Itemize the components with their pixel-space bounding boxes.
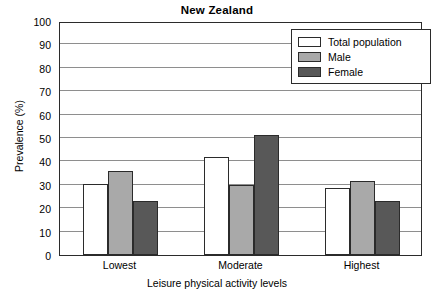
legend-item: Total population xyxy=(298,34,425,49)
y-tick-label: 70 xyxy=(39,87,51,97)
y-tick-label: 0 xyxy=(45,251,51,261)
chart-title: New Zealand xyxy=(0,4,434,16)
gridline xyxy=(60,160,421,161)
gridline xyxy=(60,114,421,115)
bar xyxy=(254,135,279,256)
y-tick-label: 100 xyxy=(33,17,51,27)
bar xyxy=(229,185,254,255)
legend-swatch-icon xyxy=(298,67,321,77)
gridline xyxy=(60,90,421,91)
x-tick-label: Highest xyxy=(344,259,380,271)
y-tick-label: 60 xyxy=(39,111,51,121)
x-axis-title: Leisure physical activity levels xyxy=(0,277,434,289)
bar xyxy=(108,171,133,255)
legend-label: Male xyxy=(328,51,351,63)
y-axis-tick-labels: 0102030405060708090100 xyxy=(0,22,55,256)
y-tick-label: 30 xyxy=(39,181,51,191)
y-tick-label: 90 xyxy=(39,40,51,50)
legend-swatch-icon xyxy=(298,37,321,47)
y-tick-label: 20 xyxy=(39,204,51,214)
legend-label: Total population xyxy=(328,36,402,48)
bar xyxy=(375,201,400,255)
gridline xyxy=(60,137,421,138)
legend-item: Female xyxy=(298,64,425,79)
y-tick-label: 50 xyxy=(39,134,51,144)
x-axis-tick-labels: LowestModerateHighest xyxy=(59,259,422,275)
y-tick-label: 80 xyxy=(39,64,51,74)
y-tick-label: 40 xyxy=(39,157,51,167)
y-tick-label: 10 xyxy=(39,228,51,238)
x-tick-label: Moderate xyxy=(218,259,262,271)
legend-swatch-icon xyxy=(298,52,321,62)
chart-legend: Total populationMaleFemale xyxy=(291,29,431,84)
x-tick-label: Lowest xyxy=(103,259,136,271)
bar xyxy=(83,184,108,255)
bar xyxy=(133,201,158,255)
bar xyxy=(325,188,350,255)
chart-figure: New Zealand Prevalence (%) 0102030405060… xyxy=(0,0,434,297)
bar xyxy=(204,157,229,255)
bar xyxy=(350,181,375,255)
legend-label: Female xyxy=(328,66,363,78)
legend-item: Male xyxy=(298,49,425,64)
